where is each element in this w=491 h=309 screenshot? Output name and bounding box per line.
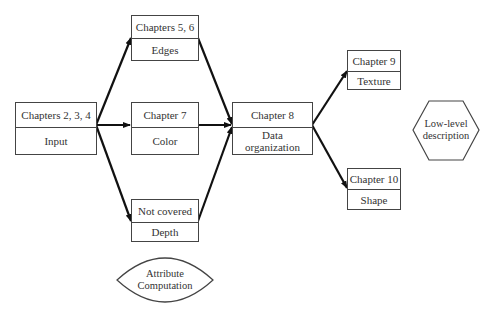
node-depth-chapter: Not covered <box>132 200 198 223</box>
arrow-data-shape <box>312 125 347 188</box>
node-depth: Not covered Depth <box>131 199 199 242</box>
node-shape-label: Shape <box>348 190 400 209</box>
node-color: Chapter 7 Color <box>131 102 199 155</box>
legend-attribute-computation: Attribute Computation <box>117 262 213 298</box>
node-input-label: Input <box>16 128 96 154</box>
node-shape: Chapter 10 Shape <box>347 168 401 210</box>
node-data-organization: Chapter 8 Data organization <box>232 102 313 155</box>
legend-lowlevel-line1: Low-level <box>424 118 467 130</box>
node-data-organization-label: Data organization <box>233 128 312 154</box>
node-edges: Chapters 5, 6 Edges <box>131 15 199 61</box>
node-data-organization-chapter: Chapter 8 <box>233 103 312 128</box>
node-color-label: Color <box>132 128 198 154</box>
node-input: Chapters 2, 3, 4 Input <box>15 102 97 155</box>
node-texture-chapter: Chapter 9 <box>348 51 400 72</box>
node-edges-label: Edges <box>132 39 198 60</box>
node-texture: Chapter 9 Texture <box>347 50 401 90</box>
arrow-data-texture <box>312 71 347 125</box>
arrow-edges-data <box>198 38 232 124</box>
arrow-input-depth <box>96 125 131 221</box>
legend-attribute-line1: Attribute <box>146 268 184 280</box>
node-color-chapter: Chapter 7 <box>132 103 198 128</box>
node-depth-label: Depth <box>132 223 198 241</box>
legend-attribute-line2: Computation <box>138 280 193 292</box>
legend-lowlevel-line2: description <box>423 130 470 142</box>
arrow-depth-data <box>198 127 232 221</box>
node-texture-label: Texture <box>348 72 400 89</box>
arrow-input-edges <box>96 38 131 125</box>
node-shape-chapter: Chapter 10 <box>348 169 400 190</box>
legend-low-level-description: Low-level description <box>413 112 479 148</box>
node-edges-chapter: Chapters 5, 6 <box>132 16 198 39</box>
node-input-chapter: Chapters 2, 3, 4 <box>16 103 96 128</box>
